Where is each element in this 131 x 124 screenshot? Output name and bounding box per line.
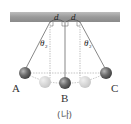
ceiling-bar [10,12,120,22]
right-angle-mark [62,22,65,26]
right-angle-mark [50,22,53,26]
pendulum-diagram: d d θ 2 θ 2 A B C (나) [0,0,131,124]
ball-label-a: A [12,82,20,94]
right-angle-mark [65,22,68,26]
distance-label-left: d [54,12,59,22]
ball-label-c: C [111,82,118,94]
angle-subscript-right: 2 [89,44,92,49]
ball-c [100,67,112,79]
angle-subscript-left: 2 [45,44,48,49]
figure-caption: (나) [57,110,72,120]
right-angle-mark [77,22,80,26]
ball-label-b: B [61,92,68,104]
ball-b [59,77,71,89]
distance-label-right: d [71,12,76,22]
ghost-ball-left [39,76,51,88]
ghost-ball-right [79,76,91,88]
ball-a [19,67,31,79]
